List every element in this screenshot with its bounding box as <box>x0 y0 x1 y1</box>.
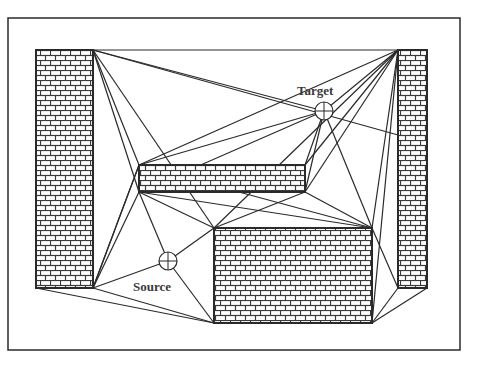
visibility-edge <box>305 111 324 192</box>
visibility-edge <box>93 50 398 135</box>
visibility-edge <box>139 111 324 165</box>
visibility-edge <box>372 288 427 323</box>
source-label: Source <box>133 279 171 294</box>
visibility-edge <box>324 111 372 228</box>
visibility-edge <box>139 50 398 165</box>
visibility-edge <box>372 50 398 323</box>
visibility-edge <box>36 288 214 323</box>
obstacle-left-wall <box>36 50 93 288</box>
visibility-edge <box>214 50 398 228</box>
visibility-edge <box>168 261 214 323</box>
source-marker <box>159 252 177 270</box>
visibility-edge <box>93 165 139 288</box>
obstacle-right-wall <box>398 50 427 288</box>
target-marker <box>315 102 333 120</box>
visibility-edge <box>372 288 398 323</box>
visibility-graph-diagram: Target Source <box>0 0 483 372</box>
visibility-edge <box>139 192 372 228</box>
visibility-edge <box>324 50 398 111</box>
obstacle-middle-block <box>139 165 305 192</box>
target-label: Target <box>297 83 334 98</box>
obstacle-bottom-block <box>214 228 372 323</box>
visibility-edge <box>139 192 168 261</box>
visibility-edge <box>93 50 139 192</box>
